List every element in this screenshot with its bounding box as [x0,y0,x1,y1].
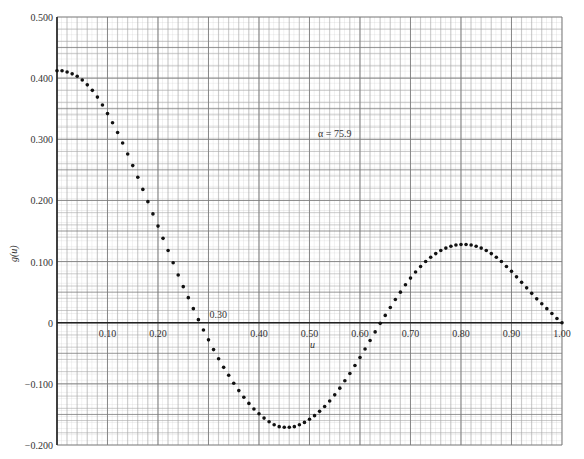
data-point [217,357,221,361]
data-point [383,314,387,318]
data-point [131,164,135,168]
data-point [65,70,69,74]
data-point [500,260,504,264]
data-point [267,420,271,424]
data-point [106,112,110,116]
data-point [409,276,413,280]
data-point [288,425,292,429]
data-point [449,244,453,248]
y-tick-label: 0.200 [31,195,54,206]
x-tick-label: 0.90 [503,328,521,339]
x-tick-label: 0.70 [402,328,420,339]
y-tick-label: 0.300 [31,134,54,145]
x-tick-label: 0.20 [149,328,167,339]
y-tick-label: −0.100 [25,379,53,390]
data-point [495,255,499,259]
data-point [126,152,130,156]
data-point [227,373,231,377]
data-point [151,212,155,216]
y-tick-labels: 0.5000.4000.3000.2000.1000−0.100−0.200 [25,12,53,451]
data-point [55,69,59,73]
data-point [313,414,317,418]
data-point [474,244,478,248]
data-point [353,364,357,368]
x-tick-label: 0.40 [250,328,268,339]
data-point [91,89,95,93]
data-point [560,321,564,325]
data-point [424,260,428,264]
data-point [222,366,226,370]
data-point [545,307,549,311]
x-tick-label: 0.60 [351,328,369,339]
data-point [212,348,216,352]
x-tick-label: 0.30 [210,309,228,320]
data-point [141,188,145,192]
data-point [121,141,125,145]
data-point [363,347,367,351]
chart: 0.100.200.300.400.500.600.700.800.901.00… [0,0,584,459]
data-point [252,407,256,411]
y-axis-label: g(u) [8,245,20,262]
data-point [282,425,286,429]
data-point [70,72,74,76]
data-point [399,290,403,294]
data-point [257,412,261,416]
data-point [146,200,150,204]
data-point [277,425,281,429]
data-point [156,224,160,228]
x-tick-label: 1.00 [553,328,571,339]
data-point [111,121,115,125]
data-point [247,402,251,406]
data-point [358,356,362,360]
data-point [555,317,559,321]
data-point [176,273,180,277]
data-point [540,302,544,306]
data-point [419,265,423,269]
data-point [192,307,196,311]
data-point [136,175,140,179]
x-tick-label: 0.10 [99,328,117,339]
data-point [469,243,473,247]
data-point [207,338,211,342]
data-point [303,421,307,425]
data-point [348,372,352,376]
data-point [187,296,191,300]
data-point [101,103,105,107]
data-point [96,95,100,99]
data-point [404,283,408,287]
data-point [298,423,302,427]
data-point [490,252,494,256]
data-point [161,237,165,241]
data-point [484,249,488,253]
data-point [242,396,246,400]
data-point [262,416,266,420]
y-tick-label: 0.500 [31,12,54,23]
data-point [338,386,342,390]
data-point [232,381,236,385]
x-axis-label: u [310,339,315,350]
data-point [520,281,524,285]
data-point [378,322,382,326]
alpha-annotation: α = 75.9 [318,128,351,139]
data-point [171,261,175,265]
data-point [525,286,529,290]
data-point [237,389,241,393]
data-point [429,255,433,259]
data-point [459,243,463,247]
data-point [394,298,398,302]
data-point [318,410,322,414]
data-point [515,275,519,279]
data-point [202,328,206,332]
data-point [333,393,337,397]
data-point [510,270,514,274]
y-tick-label: 0.100 [31,257,54,268]
data-point [60,69,64,73]
data-point [464,243,468,247]
data-point [308,418,312,422]
data-point [328,399,332,403]
data-point [86,83,90,87]
data-point [434,252,438,256]
data-point [343,379,347,383]
data-point [505,265,509,269]
y-tick-label: 0.400 [31,73,54,84]
